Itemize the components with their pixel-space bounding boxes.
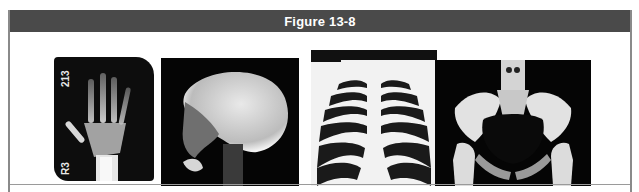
figure-panel: Figure 13-8 213 R3: [8, 10, 632, 192]
pelvis-xray-image: [435, 60, 591, 186]
figure-header: Figure 13-8: [10, 10, 630, 32]
figure-title: Figure 13-8: [284, 14, 356, 29]
figure-bottom-divider: [10, 184, 630, 185]
hand-label-bottom: R3: [60, 162, 71, 175]
chest-xray-image: [311, 50, 437, 186]
hand-xray-image: 213 R3: [54, 57, 154, 181]
skull-xray-graphic: [161, 58, 299, 186]
skull-xray-image: [161, 58, 299, 186]
chest-xray-graphic: [311, 50, 437, 186]
hand-label-top: 213: [60, 70, 71, 87]
pelvis-xray-graphic: [435, 60, 591, 186]
